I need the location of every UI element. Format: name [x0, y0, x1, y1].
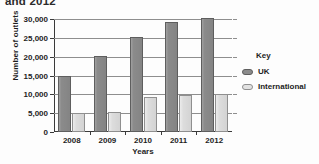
y-axis-tick-right — [233, 94, 237, 95]
y-axis-tick — [50, 132, 54, 133]
y-axis-tick-right — [233, 113, 237, 114]
y-axis-tick-right — [233, 19, 237, 20]
y-axis-tick-label: 20,000 — [24, 52, 48, 61]
y-axis-tick-label: 5,000 — [28, 109, 48, 118]
bar-international-2012 — [215, 94, 228, 132]
y-axis-tick-label: 15,000 — [24, 71, 48, 80]
bar-uk-2012 — [201, 18, 214, 132]
y-axis-tick-right — [233, 57, 237, 58]
plot-area: 05,00010,00015,00020,00025,00030,000 200… — [54, 19, 232, 132]
y-axis-tick-label: 25,000 — [24, 33, 48, 42]
legend-label-international: International — [258, 82, 306, 91]
y-axis-tick — [50, 38, 54, 39]
y-axis-tick — [50, 19, 54, 20]
x-axis-tick-label-2012: 2012 — [205, 136, 223, 145]
x-axis-tick-label-2010: 2010 — [134, 136, 152, 145]
x-axis-tick-label-2011: 2011 — [170, 136, 187, 145]
bar-chart-figure: and 2012 Number of outlets 05,00010,0001… — [0, 0, 319, 164]
legend-swatch-uk-icon — [242, 69, 253, 75]
y-axis-tick-right — [233, 76, 237, 77]
chart-legend: Key UK International — [242, 51, 318, 97]
y-axis-label: Number of outlets — [11, 0, 20, 92]
legend-item-uk: UK — [242, 67, 318, 76]
y-axis-tick-right — [233, 38, 237, 39]
legend-item-international: International — [242, 82, 318, 91]
y-axis-tick — [50, 94, 54, 95]
legend-swatch-international-icon — [242, 84, 253, 90]
x-axis-tick — [161, 132, 162, 135]
bar-international-2008 — [72, 113, 85, 132]
bar-international-2010 — [144, 97, 157, 132]
y-axis-tick — [50, 113, 54, 114]
bar-uk-2009 — [94, 56, 107, 132]
x-axis-tick — [125, 132, 126, 135]
y-axis-tick — [50, 57, 54, 58]
x-axis-tick — [90, 132, 91, 135]
x-axis-label: Years — [54, 147, 232, 156]
x-axis-tick-label-2009: 2009 — [98, 136, 116, 145]
bar-international-2011 — [179, 95, 192, 132]
y-axis-tick — [50, 76, 54, 77]
legend-label-uk: UK — [258, 67, 270, 76]
x-axis-tick — [196, 132, 197, 135]
x-axis-tick-label-2008: 2008 — [63, 136, 81, 145]
y-axis-tick-label: 0 — [44, 128, 48, 137]
bar-uk-2008 — [58, 76, 71, 133]
y-axis-tick-label: 10,000 — [24, 90, 48, 99]
y-axis-tick-label: 30,000 — [24, 15, 48, 24]
bar-uk-2010 — [130, 37, 143, 132]
legend-title: Key — [256, 51, 318, 60]
bar-international-2009 — [108, 112, 121, 132]
bar-uk-2011 — [165, 22, 178, 132]
